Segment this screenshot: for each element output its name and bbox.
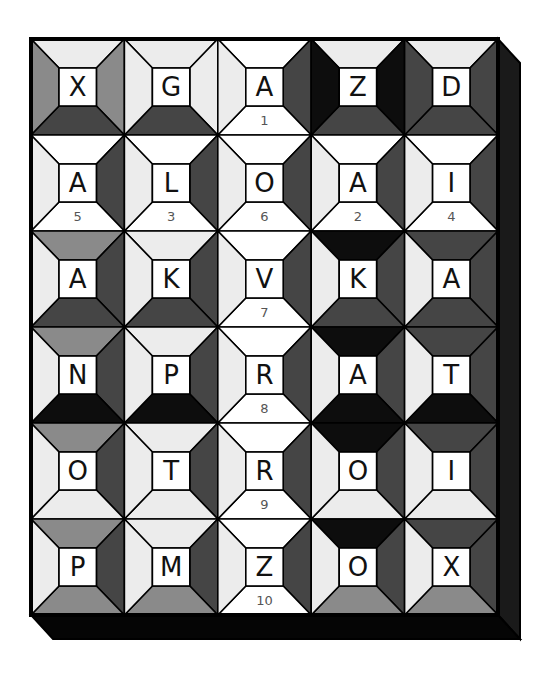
- cell-letter: I: [447, 456, 455, 486]
- cell-r1-c2[interactable]: G: [124, 39, 217, 135]
- cell-letter: P: [163, 360, 179, 390]
- cell-r5-c5[interactable]: I: [405, 423, 498, 519]
- cell-r4-c1[interactable]: N: [31, 327, 124, 423]
- cell-r5-c2[interactable]: T: [124, 423, 217, 519]
- shadow-right-side: [498, 39, 520, 639]
- cell-letter: K: [349, 264, 367, 294]
- cell-letter: Z: [256, 552, 274, 582]
- cell-r2-c1[interactable]: A5: [31, 135, 124, 231]
- cell-r1-c4[interactable]: Z: [311, 39, 404, 135]
- cell-number: 8: [260, 401, 268, 416]
- cell-r4-c3[interactable]: R8: [218, 327, 311, 423]
- cell-r4-c5[interactable]: T: [405, 327, 498, 423]
- shadow-bottom-side: [31, 615, 520, 639]
- cell-r5-c3[interactable]: R9: [218, 423, 311, 519]
- cell-letter: T: [442, 360, 459, 390]
- cell-letter: P: [70, 552, 86, 582]
- cell-r5-c1[interactable]: O: [31, 423, 124, 519]
- cell-letter: A: [349, 168, 367, 198]
- cell-r6-c1[interactable]: P: [31, 519, 124, 615]
- cell-letter: O: [348, 456, 368, 486]
- cell-r6-c2[interactable]: M: [124, 519, 217, 615]
- cell-r1-c3[interactable]: A1: [218, 39, 311, 135]
- cell-letter: O: [348, 552, 368, 582]
- cell-r6-c5[interactable]: X: [405, 519, 498, 615]
- cell-r6-c4[interactable]: O: [311, 519, 404, 615]
- cell-r2-c3[interactable]: O6: [218, 135, 311, 231]
- cell-r3-c5[interactable]: A: [405, 231, 498, 327]
- cell-r1-c5[interactable]: D: [405, 39, 498, 135]
- cell-letter: I: [447, 168, 455, 198]
- cell-letter: R: [255, 456, 273, 486]
- cell-letter: V: [256, 264, 274, 294]
- cell-r4-c2[interactable]: P: [124, 327, 217, 423]
- cell-r3-c4[interactable]: K: [311, 231, 404, 327]
- cell-letter: K: [163, 264, 181, 294]
- cell-letter: A: [349, 360, 367, 390]
- cell-r5-c4[interactable]: O: [311, 423, 404, 519]
- cell-letter: L: [164, 168, 179, 198]
- cell-r3-c1[interactable]: A: [31, 231, 124, 327]
- cell-letter: O: [67, 456, 87, 486]
- cell-letter: T: [162, 456, 179, 486]
- cell-number: 4: [447, 209, 455, 224]
- cell-number: 7: [260, 305, 268, 320]
- cell-r2-c5[interactable]: I4: [405, 135, 498, 231]
- cell-letter: O: [254, 168, 274, 198]
- cell-number: 3: [167, 209, 175, 224]
- cell-r3-c2[interactable]: K: [124, 231, 217, 327]
- cell-r2-c2[interactable]: L3: [124, 135, 217, 231]
- cell-number: 10: [256, 593, 273, 608]
- cell-letter: D: [441, 72, 461, 102]
- cell-r3-c3[interactable]: V7: [218, 231, 311, 327]
- cell-letter: A: [442, 264, 460, 294]
- cell-letter: X: [442, 552, 460, 582]
- cell-number: 5: [74, 209, 82, 224]
- cell-letter: N: [68, 360, 87, 390]
- cell-letter: R: [255, 360, 273, 390]
- cell-letter: A: [69, 168, 87, 198]
- puzzle-grid: XGA1ZDA5L3O6A2I4AKV7KANPR8ATOTR9OIPMZ10O…: [31, 39, 498, 615]
- cell-r2-c4[interactable]: A2: [311, 135, 404, 231]
- cell-letter: A: [256, 72, 274, 102]
- cell-letter: G: [161, 72, 181, 102]
- cell-number: 9: [260, 497, 268, 512]
- cell-letter: M: [160, 552, 182, 582]
- cell-r6-c3[interactable]: Z10: [218, 519, 311, 615]
- puzzle-board: XGA1ZDA5L3O6A2I4AKV7KANPR8ATOTR9OIPMZ10O…: [0, 0, 550, 676]
- cell-number: 1: [260, 113, 268, 128]
- cell-letter: X: [69, 72, 87, 102]
- cell-number: 2: [354, 209, 362, 224]
- cell-letter: A: [69, 264, 87, 294]
- cell-number: 6: [260, 209, 268, 224]
- cell-letter: Z: [349, 72, 367, 102]
- cell-r4-c4[interactable]: A: [311, 327, 404, 423]
- cell-r1-c1[interactable]: X: [31, 39, 124, 135]
